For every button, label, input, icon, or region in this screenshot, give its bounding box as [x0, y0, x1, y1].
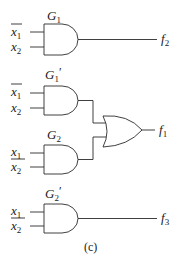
- g2-to-or-wire: [78, 137, 106, 160]
- g2p-input-2-label: x2: [10, 218, 21, 235]
- gate-g1-prime: G1′ x1 x2: [10, 65, 106, 123]
- g1p-and-gate: [44, 86, 78, 115]
- or-gate-group: f1: [103, 116, 167, 147]
- output-f1-label: f1: [159, 122, 167, 139]
- gate-g1-prime-label: G1′: [45, 65, 62, 84]
- or-gate: [103, 116, 142, 147]
- g1p-input-2-label: x2: [10, 100, 21, 117]
- gate-g2-prime-label: G2′: [45, 184, 62, 203]
- gate-g2-label: G2: [47, 127, 61, 144]
- gate-g1-label: G1: [47, 8, 61, 25]
- gate-g2: G2 x1 x2: [10, 127, 106, 176]
- g2-input-2-label: x2: [10, 159, 21, 176]
- output-f2-label: f2: [161, 31, 169, 48]
- g1-and-gate: [44, 24, 78, 55]
- g2p-and-gate: [44, 204, 78, 233]
- logic-circuit-diagram: G1 x1 x2 f2 G1′ x1 x2 G2 x1 x2 f1: [0, 0, 185, 264]
- output-f3-label: f3: [161, 210, 170, 227]
- g2-and-gate: [44, 145, 78, 174]
- figure-caption: (c): [84, 240, 97, 254]
- g1p-input-1-label: x1: [10, 84, 21, 101]
- gate-g2-prime: G2′ x1 x2 f3: [10, 184, 170, 235]
- gate-g1: G1 x1 x2 f2: [10, 8, 169, 56]
- g1-input-2-label: x2: [10, 39, 21, 56]
- g1p-to-or-wire: [78, 101, 106, 124]
